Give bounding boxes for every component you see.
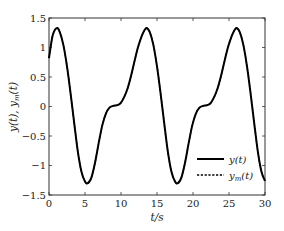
x-tick-label: 30 (259, 198, 272, 209)
x-tick-label: 15 (151, 198, 164, 209)
y-axis-label: y(t), ym(t) (7, 82, 21, 133)
x-tick-label: 0 (46, 198, 52, 209)
legend-label-y: y(t) (228, 154, 247, 165)
y-tick-label: 0.5 (30, 72, 46, 83)
y-tick-label: 0 (40, 101, 46, 112)
legend-label-ym: ym(t) (228, 170, 253, 183)
y-tick-label: −1.5 (22, 190, 46, 201)
x-tick-label: 20 (187, 198, 200, 209)
x-tick-label: 10 (115, 198, 128, 209)
y-tick-label: −0.5 (22, 131, 46, 142)
line-chart: 051015202530−1.5−1−0.500.511.5 t/s y(t),… (0, 0, 284, 231)
y-tick-label: −1 (31, 160, 46, 171)
x-tick-label: 5 (82, 198, 88, 209)
x-axis-label: t/s (150, 211, 164, 223)
x-tick-label: 25 (223, 198, 236, 209)
y-tick-label: 1 (40, 42, 46, 53)
legend: y(t) ym(t) (197, 154, 253, 183)
y-tick-label: 1.5 (30, 13, 46, 24)
